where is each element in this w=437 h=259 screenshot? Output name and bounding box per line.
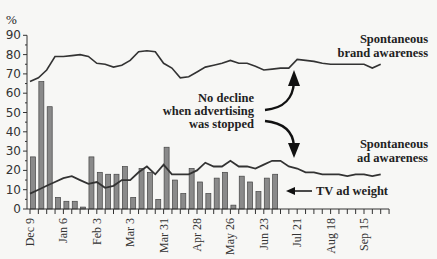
y-tick-label: 90 [6, 28, 21, 42]
x-tick-label: Feb 3 [90, 218, 104, 245]
x-tick-label: Jan 6 [56, 218, 70, 243]
tv-ad-weight-bar [56, 197, 61, 209]
tv-ad-weight-bar [139, 168, 144, 209]
y-tick-label: 0 [13, 202, 21, 216]
tv-ad-weight-bar [156, 199, 161, 209]
brand-awareness-label-line1: Spontaneous [360, 32, 428, 46]
tv-ad-weight-bar [223, 172, 228, 209]
ad-awareness-label-line1: Spontaneous [360, 137, 428, 151]
tv-ad-weight-bar [47, 107, 52, 209]
x-tick-label: Aug 18 [324, 218, 338, 254]
tv-ad-weight-bar [214, 178, 219, 209]
y-tick-label: 60 [6, 86, 21, 100]
y-axis: 0102030405060708090 [6, 28, 27, 216]
tv-ad-weight-bar [256, 192, 261, 209]
tv-ad-weight-bar [264, 178, 269, 209]
x-axis: Dec 9Jan 6Feb 3Mar 3Mar 31Apr 28May 26Ju… [23, 209, 389, 255]
x-tick-label: Dec 9 [23, 218, 37, 246]
note-line3: was stopped [189, 117, 254, 131]
arrow-up-icon [265, 70, 300, 110]
y-tick-label: 50 [6, 106, 21, 120]
x-tick-label: Apr 28 [190, 218, 204, 252]
ad-awareness-label-line2: ad awareness [357, 151, 428, 165]
tv-ad-weight-bar [64, 201, 69, 209]
x-tick-label: May 26 [223, 218, 237, 255]
tv-ad-weight-bar [198, 182, 203, 209]
brand-awareness-label-line2: brand awareness [338, 46, 429, 60]
tv-ad-weight-bar [72, 201, 77, 209]
x-tick-label: Mar 3 [123, 218, 137, 247]
awareness-chart: 0102030405060708090 Dec 9Jan 6Feb 3Mar 3… [0, 0, 437, 259]
y-tick-label: 40 [6, 125, 21, 139]
brand-awareness-line [30, 51, 381, 82]
tv-ad-weight-bar [147, 172, 152, 209]
tv-ad-weight-bar [114, 174, 119, 209]
y-tick-label: 20 [6, 163, 21, 177]
tv-ad-weight-bar [31, 157, 36, 209]
tv-ad-weight-bar [164, 147, 169, 209]
tv-ad-weight-bar [248, 182, 253, 209]
y-tick-label: 80 [6, 48, 21, 62]
arrow-down-icon [265, 121, 300, 158]
tv-ad-weight-label: TV ad weight [316, 184, 389, 198]
y-tick-label: 70 [6, 67, 21, 81]
tv-ad-weight-bar [206, 194, 211, 209]
arrow-left-icon [286, 187, 312, 195]
tv-ad-weight-bar [181, 194, 186, 209]
tv-ad-weight-bar [131, 197, 136, 209]
tv-ad-weight-bar [122, 167, 127, 209]
note-line2: when advertising [163, 104, 255, 118]
tv-ad-weight-bar [231, 205, 236, 209]
x-tick-label: Sep 15 [357, 218, 371, 251]
tv-ad-weight-bar [273, 174, 278, 209]
x-tick-label: Mar 31 [157, 218, 171, 253]
note-line1: No decline [198, 91, 254, 105]
y-tick-label: 30 [6, 144, 21, 158]
x-tick-label: Jul 21 [290, 218, 304, 247]
tv-ad-weight-bar [97, 172, 102, 209]
x-tick-label: Jun 23 [257, 218, 271, 250]
tv-ad-weight-bar [172, 180, 177, 209]
tv-ad-weight-bar [106, 174, 111, 209]
y-unit-label: % [6, 12, 17, 27]
tv-ad-weight-bar [239, 176, 244, 209]
y-tick-label: 10 [6, 183, 21, 197]
